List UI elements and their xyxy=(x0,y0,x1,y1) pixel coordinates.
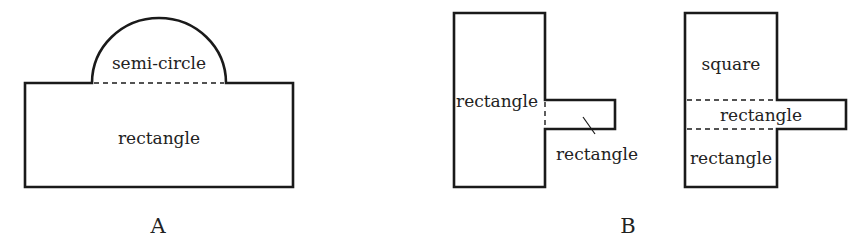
figure-b-left-leader-line xyxy=(583,117,595,134)
figure-b-right: square rectangle rectangle xyxy=(685,13,846,187)
figure-b-left: rectangle rectangle xyxy=(454,13,638,187)
figure-b-right-bottom-label: rectangle xyxy=(690,148,772,168)
figure-a-semicircle-label: semi-circle xyxy=(112,53,206,73)
figure-a-outline xyxy=(25,18,293,187)
figure-b-caption: B xyxy=(620,214,635,238)
figure-b-left-tab-label: rectangle xyxy=(556,144,638,164)
figure-b-right-middle-label: rectangle xyxy=(720,105,802,125)
figure-a-rectangle-label: rectangle xyxy=(118,128,200,148)
figure-a-caption: A xyxy=(149,214,166,238)
figure-b-left-main-label: rectangle xyxy=(456,91,538,111)
figure-b-right-square-label: square xyxy=(702,54,761,74)
composite-shapes-diagram: semi-circle rectangle A rectangle rectan… xyxy=(0,0,862,249)
figure-a: semi-circle rectangle A xyxy=(25,18,293,238)
